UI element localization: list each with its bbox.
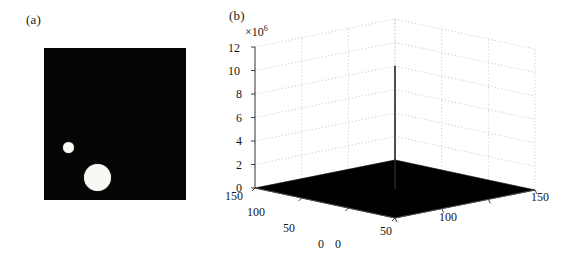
- x-tick-100: [488, 199, 490, 203]
- x-axis-tick-label-2: 100: [439, 210, 457, 225]
- z-axis-tick-label-0: 12: [228, 41, 240, 56]
- y-axis-tick-label-3: 0: [318, 237, 324, 252]
- gridline-z-8: [255, 66, 395, 94]
- gridline-z-right-8: [395, 66, 535, 96]
- z-axis-tick-label-4: 4: [236, 134, 242, 149]
- z-axis-tick-label-5: 2: [236, 158, 242, 173]
- y-tick-100: [299, 198, 302, 201]
- y-tick-50: [345, 208, 348, 211]
- small-disk: [63, 142, 74, 153]
- x-axis-tick-label-3: 150: [531, 190, 549, 205]
- y-axis-tick-label-2: 50: [283, 221, 295, 236]
- gridlines-left-wall: [255, 19, 395, 188]
- gridline-z-right-2: [395, 137, 535, 167]
- gridline-z-12: [255, 19, 395, 47]
- large-disk: [84, 164, 111, 191]
- panel-a: [44, 48, 186, 200]
- gridline-z-2: [255, 137, 395, 165]
- panel-b-surface-plot: ×106 121086420150100500050100150: [225, 0, 580, 261]
- x-axis-tick-label-1: 50: [380, 224, 392, 239]
- x-tick-0: [395, 218, 397, 222]
- z-axis-tick-label-1: 10: [228, 64, 240, 79]
- binary-image-canvas: [44, 48, 186, 200]
- gridline-z-4: [255, 113, 395, 141]
- y-tick-0: [392, 218, 395, 221]
- z-axis-tick-label-2: 8: [236, 87, 242, 102]
- surface-plot-svg: [225, 0, 580, 261]
- gridline-z-right-4: [395, 113, 535, 143]
- gridline-z-right-12: [395, 19, 535, 49]
- gridline-z-right-10: [395, 43, 535, 73]
- z-axis-tick-label-3: 6: [236, 111, 242, 126]
- panel-a-label: (a): [26, 12, 41, 28]
- y-axis-tick-label-1: 100: [247, 205, 265, 220]
- figure-root: (a) (b) ×106 121086420150100500: [0, 0, 580, 261]
- x-axis-tick-label-0: 0: [335, 237, 341, 252]
- gridline-z-6: [255, 90, 395, 118]
- gridline-z-right-6: [395, 90, 535, 120]
- gridline-z-10: [255, 43, 395, 71]
- y-axis-tick-label-0: 150: [225, 189, 243, 204]
